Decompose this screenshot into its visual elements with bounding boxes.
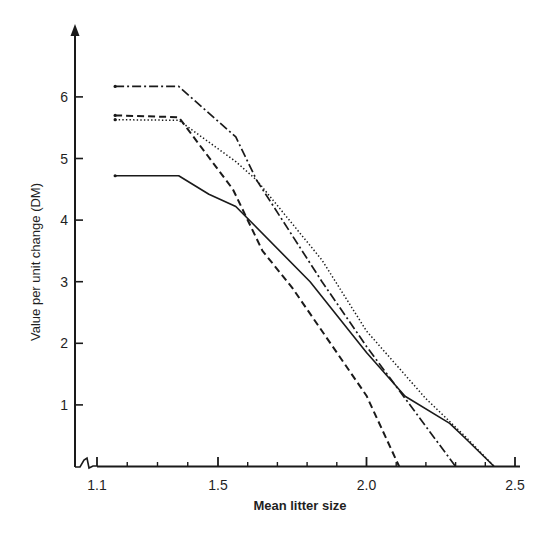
series-line-dash-dot	[115, 86, 456, 466]
x-tick-label: 2.0	[357, 477, 377, 493]
series-group	[114, 85, 495, 467]
series-start-marker	[114, 85, 117, 88]
series-start-marker	[114, 174, 117, 177]
series-line-dashed	[115, 115, 399, 466]
x-ticks: 1.11.52.02.5	[87, 457, 525, 493]
x-tick-label: 1.1	[87, 477, 107, 493]
y-axis: 123456	[60, 24, 83, 467]
y-tick-label: 5	[60, 151, 68, 167]
y-axis-title: Value per unit change (DM)	[28, 183, 43, 341]
y-tick-label: 3	[60, 274, 68, 290]
x-axis: 1.11.52.02.5	[75, 457, 525, 493]
y-tick-label: 6	[60, 89, 68, 105]
y-axis-arrow-icon	[71, 24, 80, 36]
series-start-marker	[114, 118, 117, 121]
y-tick-label: 1	[60, 397, 68, 413]
series-line-dotted	[115, 120, 494, 467]
series-start-marker	[114, 114, 117, 117]
x-tick-label: 2.5	[505, 477, 525, 493]
line-chart: 123456 1.11.52.02.5 Value per unit chang…	[0, 0, 559, 538]
series-line-solid	[115, 176, 494, 467]
x-axis-break-icon	[75, 458, 97, 468]
y-ticks: 123456	[60, 89, 83, 413]
y-tick-label: 2	[60, 335, 68, 351]
x-tick-label: 1.5	[208, 477, 228, 493]
y-tick-label: 4	[60, 212, 68, 228]
x-axis-title: Mean litter size	[253, 498, 346, 513]
